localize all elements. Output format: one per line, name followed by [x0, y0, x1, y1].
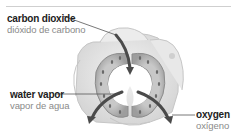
label-water-vapor: water vapor vapor de agua — [10, 89, 69, 111]
label-en: water vapor — [10, 89, 69, 100]
label-oxygen: oxygen oxígeno — [196, 109, 230, 131]
label-en: carbon dioxide — [7, 13, 85, 24]
label-carbon-dioxide: carbon dioxide dióxido de carbono — [7, 13, 85, 35]
label-en: oxygen — [196, 109, 230, 120]
label-es: oxígeno — [196, 120, 230, 131]
label-es: vapor de agua — [10, 100, 69, 111]
label-es: dióxido de carbono — [7, 24, 85, 35]
